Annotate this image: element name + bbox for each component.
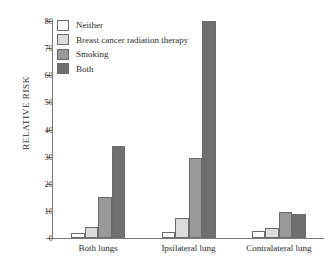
legend-item: Both (57, 62, 188, 77)
y-axis-tick-label: 80 (27, 17, 53, 26)
bar (189, 158, 203, 238)
y-axis-tick-label: 10 (27, 207, 53, 216)
bar (85, 227, 99, 238)
y-axis-tick-label: 70 (27, 44, 53, 53)
x-axis-label: Contralateral lung (219, 243, 334, 253)
y-axis-tick: 0 (0, 238, 53, 239)
legend-item: Smoking (57, 47, 188, 62)
relative-risk-bar-chart: RELATIVE RISK 01020304050607080 Both lun… (0, 0, 334, 268)
legend-label: Both (76, 64, 94, 74)
x-axis-line (52, 238, 324, 239)
legend-swatch (57, 63, 69, 74)
bar (202, 21, 216, 238)
y-axis-tick: 20 (0, 184, 53, 185)
y-axis-tick-label: 40 (27, 126, 53, 135)
legend-item: Neither (57, 18, 188, 33)
bar (71, 233, 85, 238)
y-axis-tick-label: 60 (27, 71, 53, 80)
legend-label: Neither (76, 20, 103, 30)
legend-label: Breast cancer radiation therapy (76, 35, 188, 45)
y-axis-tick: 70 (0, 48, 53, 49)
legend-label: Smoking (76, 49, 109, 59)
chart-legend: NeitherBreast cancer radiation therapySm… (57, 18, 188, 76)
bar (162, 232, 176, 238)
legend-swatch (57, 34, 69, 45)
legend-item: Breast cancer radiation therapy (57, 33, 188, 48)
y-axis-tick-label: 50 (27, 98, 53, 107)
bar (112, 146, 126, 238)
y-axis-tick: 10 (0, 211, 53, 212)
legend-swatch (57, 20, 69, 31)
bar (292, 214, 306, 238)
bar (98, 197, 112, 238)
bar (279, 212, 293, 238)
bar (252, 231, 266, 238)
bar-group (252, 21, 306, 238)
y-axis-tick-label: 30 (27, 153, 53, 162)
y-axis-tick: 60 (0, 75, 53, 76)
y-axis-tick: 50 (0, 102, 53, 103)
y-axis-tick: 40 (0, 130, 53, 131)
y-axis-tick: 80 (0, 21, 53, 22)
y-axis-tick-label: 0 (27, 234, 53, 243)
legend-swatch (57, 49, 69, 60)
bar (175, 218, 189, 238)
bar (265, 228, 279, 238)
y-axis-tick-label: 20 (27, 180, 53, 189)
y-axis-tick: 30 (0, 157, 53, 158)
